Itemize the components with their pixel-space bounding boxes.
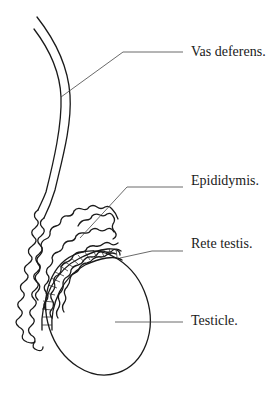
label-epididymis: Epididymis. (191, 173, 259, 189)
leader-lines (61, 52, 183, 322)
label-vas-deferens: Vas deferens. (191, 44, 266, 60)
leader-epididymis (80, 187, 183, 238)
leader-rete-testis (120, 251, 183, 258)
label-rete-testis: Rete testis. (191, 236, 252, 252)
label-testicle: Testicle. (191, 313, 238, 329)
coiled-duct (16, 210, 44, 351)
vas-deferens-tube (34, 17, 70, 218)
leader-vas-deferens (61, 52, 183, 97)
